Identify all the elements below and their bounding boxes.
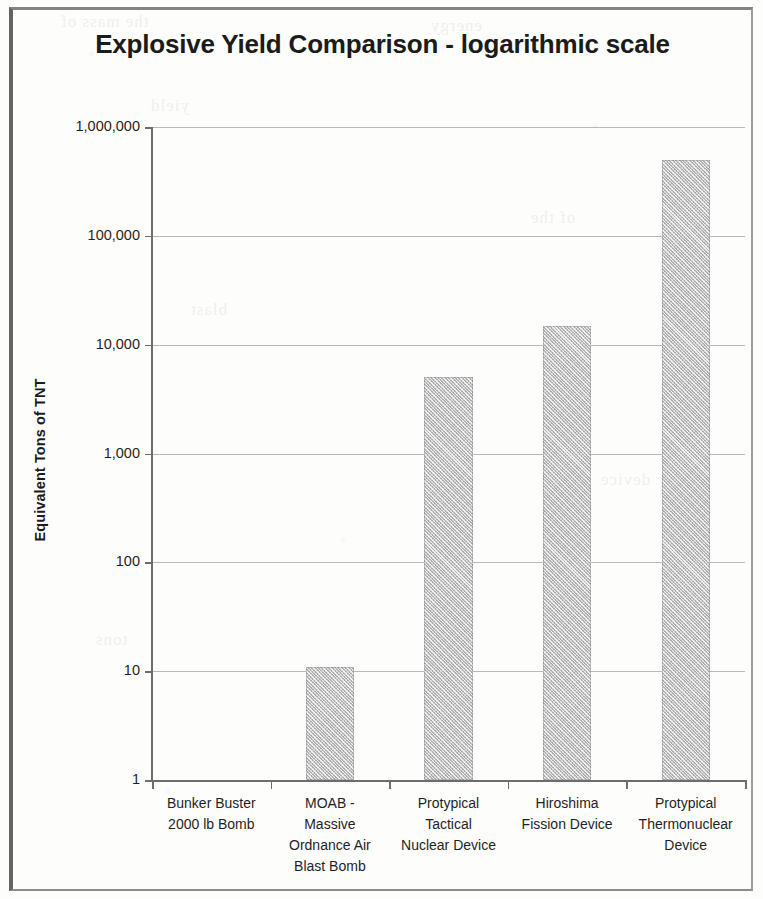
y-axis-tick-label: 100,000 <box>30 227 140 243</box>
y-axis-tick-label: 1,000,000 <box>30 118 140 134</box>
bar <box>543 326 591 780</box>
category-label-line: Hiroshima <box>504 793 631 814</box>
x-axis-category-label: HiroshimaFission Device <box>504 793 631 835</box>
category-label-line: Blast Bomb <box>267 856 394 877</box>
y-axis-tick-label: 1 <box>30 771 140 787</box>
category-label-line: Thermonuclear <box>622 814 749 835</box>
category-label-line: Ordnance Air <box>267 835 394 856</box>
y-axis-tick <box>145 562 153 564</box>
category-label-line: 2000 lb Bomb <box>148 814 275 835</box>
category-label-line: Fission Device <box>504 814 631 835</box>
y-axis-tick-label: 100 <box>30 553 140 569</box>
bar <box>424 377 472 780</box>
x-axis-category-label: ProtypicalThermonuclearDevice <box>622 793 749 856</box>
category-label-line: Protypical <box>622 793 749 814</box>
x-axis-category-label: MOAB -MassiveOrdnance AirBlast Bomb <box>267 793 394 877</box>
category-label-line: MOAB - <box>267 793 394 814</box>
category-label-line: Massive <box>267 814 394 835</box>
y-axis-tick <box>145 345 153 347</box>
y-axis-tick <box>145 127 153 129</box>
chart-title: Explosive Yield Comparison - logarithmic… <box>70 28 695 61</box>
x-axis-category-label: ProtypicalTacticalNuclear Device <box>385 793 512 856</box>
x-axis-tick <box>271 780 273 789</box>
y-axis-tick-label: 10 <box>30 662 140 678</box>
y-axis-tick <box>145 236 153 238</box>
scanned-page: the mass of energy yield of the blast de… <box>0 0 763 899</box>
x-axis-category-label: Bunker Buster2000 lb Bomb <box>148 793 275 835</box>
y-axis-tick-label: 1,000 <box>30 445 140 461</box>
category-label-line: Device <box>622 835 749 856</box>
gridline <box>152 127 745 128</box>
y-axis-tick-label: 10,000 <box>30 336 140 352</box>
explosive-yield-bar-chart: Explosive Yield Comparison - logarithmic… <box>0 0 763 899</box>
category-label-line: Bunker Buster <box>148 793 275 814</box>
bar <box>306 667 354 780</box>
x-axis-line <box>152 780 745 782</box>
y-axis-tick <box>145 671 153 673</box>
y-axis-tick <box>145 454 153 456</box>
x-axis-tick <box>389 780 391 789</box>
bar <box>662 160 710 780</box>
x-axis-tick <box>508 780 510 789</box>
x-axis-tick <box>745 780 747 789</box>
gridline <box>152 345 745 346</box>
x-axis-tick <box>626 780 628 789</box>
category-label-line: Tactical <box>385 814 512 835</box>
category-label-line: Nuclear Device <box>385 835 512 856</box>
gridline <box>152 236 745 237</box>
category-label-line: Protypical <box>385 793 512 814</box>
x-axis-tick <box>152 780 154 789</box>
